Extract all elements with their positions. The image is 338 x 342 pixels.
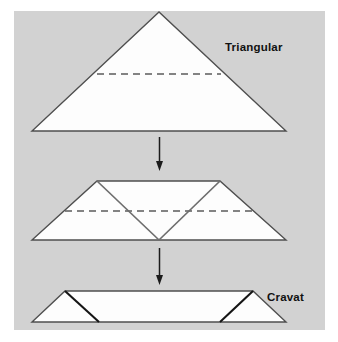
arrow-step-2-to-3: [156, 248, 163, 285]
diagram-page: Triangular Cravat: [0, 0, 338, 342]
step-1-triangular-shape: [32, 12, 286, 131]
label-cravat: Cravat: [267, 291, 304, 303]
triangle-body: [32, 12, 286, 131]
label-triangular: Triangular: [225, 41, 283, 53]
step-2-folded-shape: [32, 181, 286, 240]
arrow-head-icon: [156, 161, 163, 171]
arrow-step-1-to-2: [156, 137, 163, 171]
arrow-head-icon: [156, 275, 163, 285]
step-3-cravat-shape: [32, 291, 286, 322]
